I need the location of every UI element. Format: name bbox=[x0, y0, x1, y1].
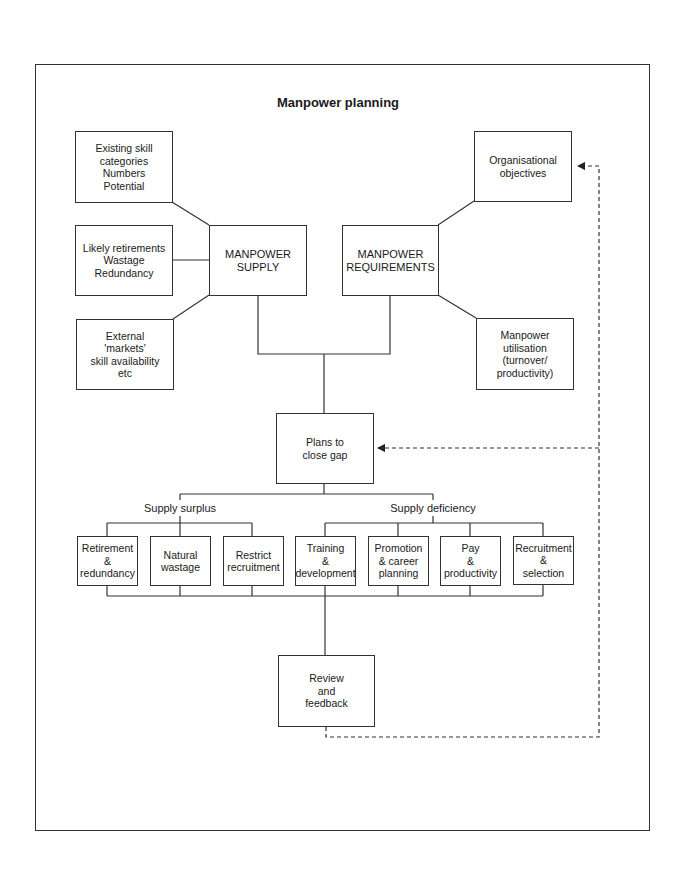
box-line: categories bbox=[95, 155, 152, 168]
plans-to-close-gap-box: Plans to close gap bbox=[276, 413, 374, 484]
box-line: redundancy bbox=[80, 567, 135, 580]
box-line: Review bbox=[305, 672, 348, 685]
box-line: Natural bbox=[161, 549, 200, 562]
organisational-objectives-box: Organisational objectives bbox=[474, 131, 572, 202]
pay-productivity-box: Pay & productivity bbox=[440, 536, 501, 586]
natural-wastage-box: Natural wastage bbox=[150, 536, 211, 586]
box-line: Training bbox=[295, 542, 355, 555]
box-line: objectives bbox=[489, 167, 557, 180]
box-line: & bbox=[515, 554, 572, 567]
box-line: selection bbox=[515, 567, 572, 580]
box-line: Plans to bbox=[303, 436, 348, 449]
manpower-requirements-box: MANPOWER REQUIREMENTS bbox=[342, 225, 439, 296]
box-line: Numbers bbox=[95, 167, 152, 180]
manpower-utilisation-box: Manpower utilisation (turnover/ producti… bbox=[476, 318, 574, 390]
box-line: Pay bbox=[444, 542, 497, 555]
box-line: productivity) bbox=[497, 367, 554, 380]
manpower-supply-box: MANPOWER SUPPLY bbox=[209, 225, 307, 296]
box-line: (turnover/ bbox=[497, 354, 554, 367]
recruitment-selection-box: Recruitment & selection bbox=[513, 536, 574, 585]
box-line: REQUIREMENTS bbox=[346, 261, 435, 274]
box-line: Potential bbox=[95, 180, 152, 193]
box-line: Redundancy bbox=[83, 267, 165, 280]
box-line: close gap bbox=[303, 449, 348, 462]
box-line: skill availability bbox=[91, 355, 160, 368]
box-line: SUPPLY bbox=[225, 261, 291, 274]
box-line: productivity bbox=[444, 567, 497, 580]
box-line: MANPOWER bbox=[346, 248, 435, 261]
box-line: & bbox=[80, 555, 135, 568]
training-development-box: Training & development bbox=[295, 536, 356, 586]
box-line: recruitment bbox=[227, 561, 280, 574]
box-line: Recruitment bbox=[515, 542, 572, 555]
box-line: & bbox=[295, 555, 355, 568]
box-line: feedback bbox=[305, 697, 348, 710]
box-line: Wastage bbox=[83, 254, 165, 267]
restrict-recruitment-box: Restrict recruitment bbox=[223, 536, 284, 586]
existing-skills-box: Existing skill categories Numbers Potent… bbox=[75, 131, 173, 203]
promotion-career-box: Promotion & career planning bbox=[368, 536, 429, 586]
supply-surplus-label: Supply surplus bbox=[130, 502, 230, 514]
retirements-box: Likely retirements Wastage Redundancy bbox=[75, 225, 173, 296]
box-line: Restrict bbox=[227, 549, 280, 562]
retirement-redundancy-box: Retirement & redundancy bbox=[77, 536, 138, 586]
box-line: External bbox=[91, 330, 160, 343]
box-line: utilisation bbox=[497, 342, 554, 355]
box-line: Organisational bbox=[489, 154, 557, 167]
box-line: etc bbox=[91, 367, 160, 380]
box-line: development bbox=[295, 567, 355, 580]
box-line: Retirement bbox=[80, 542, 135, 555]
box-line: & bbox=[444, 555, 497, 568]
box-line: planning bbox=[375, 567, 423, 580]
box-line: wastage bbox=[161, 561, 200, 574]
box-line: Existing skill bbox=[95, 142, 152, 155]
external-markets-box: External 'markets' skill availability et… bbox=[76, 319, 174, 390]
diagram-title: Manpower planning bbox=[0, 95, 676, 110]
box-line: 'markets' bbox=[91, 342, 160, 355]
review-feedback-box: Review and feedback bbox=[278, 655, 375, 727]
supply-deficiency-label: Supply deficiency bbox=[378, 502, 488, 514]
box-line: MANPOWER bbox=[225, 248, 291, 261]
box-line: Likely retirements bbox=[83, 242, 165, 255]
box-line: and bbox=[305, 685, 348, 698]
box-line: & career bbox=[375, 555, 423, 568]
box-line: Promotion bbox=[375, 542, 423, 555]
box-line: Manpower bbox=[497, 329, 554, 342]
